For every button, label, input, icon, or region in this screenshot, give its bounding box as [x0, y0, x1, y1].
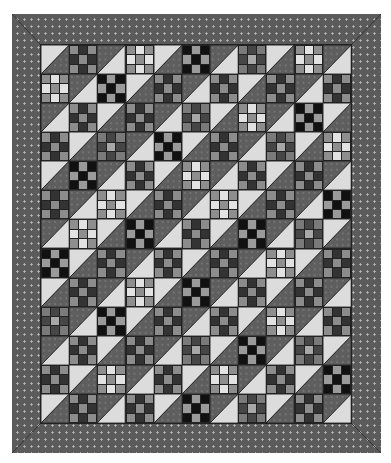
nine-patch-square [239, 288, 247, 296]
nine-patch-square [333, 375, 341, 383]
nine-patch-square [70, 114, 78, 122]
nine-patch-square [286, 250, 294, 258]
nine-patch-square [155, 375, 163, 383]
nine-patch-square [314, 230, 322, 238]
nine-patch-square [88, 181, 96, 189]
nine-patch-square [248, 55, 256, 63]
nine-patch-square [183, 337, 191, 345]
nine-patch-square [88, 297, 96, 305]
nine-patch-square [305, 404, 313, 412]
nine-patch-square [183, 355, 191, 363]
nine-patch-square [164, 94, 172, 102]
nine-patch-square [324, 133, 332, 141]
nine-patch-square [60, 259, 68, 267]
nine-patch-square [248, 230, 256, 238]
nine-patch-square [267, 385, 275, 393]
nine-patch-square [239, 355, 247, 363]
nine-patch-block [323, 307, 351, 336]
nine-patch-square [314, 46, 322, 54]
nine-patch-block [97, 249, 125, 278]
nine-patch-block [295, 278, 323, 307]
nine-patch-square [277, 366, 285, 374]
nine-patch-square [229, 259, 237, 267]
nine-patch-square [79, 279, 87, 287]
nine-patch-square [183, 172, 191, 180]
nine-patch-block [154, 190, 182, 219]
nine-patch-square [42, 143, 50, 151]
half-square-triangle-block [323, 161, 351, 190]
nine-patch-square [277, 191, 285, 199]
nine-patch-square [183, 220, 191, 228]
nine-patch-square [314, 239, 322, 247]
nine-patch-square [42, 259, 50, 267]
nine-patch-square [127, 404, 135, 412]
nine-patch-square [192, 230, 200, 238]
nine-patch-square [155, 75, 163, 83]
nine-patch-square [277, 201, 285, 209]
nine-patch-square [164, 366, 172, 374]
nine-patch-square [173, 375, 181, 383]
nine-patch-square [155, 250, 163, 258]
nine-patch-square [51, 268, 59, 276]
nine-patch-square [116, 375, 124, 383]
half-square-triangle-block [154, 336, 182, 365]
nine-patch-block [295, 219, 323, 248]
nine-patch-square [257, 297, 265, 305]
nine-patch-square [192, 279, 200, 287]
nine-patch-square [296, 395, 304, 403]
nine-patch-square [116, 268, 124, 276]
nine-patch-square [201, 123, 209, 131]
nine-patch-square [201, 239, 209, 247]
nine-patch-square [116, 385, 124, 393]
nine-patch-square [127, 414, 135, 422]
nine-patch-square [229, 152, 237, 160]
half-square-triangle-block [69, 365, 97, 394]
nine-patch-square [257, 230, 265, 238]
nine-patch-square [155, 385, 163, 393]
nine-patch-square [173, 259, 181, 267]
nine-patch-square [51, 210, 59, 218]
nine-patch-square [342, 143, 350, 151]
nine-patch-square [305, 414, 313, 422]
nine-patch-square [201, 162, 209, 170]
nine-patch-square [333, 133, 341, 141]
nine-patch-square [324, 75, 332, 83]
nine-patch-block [69, 45, 97, 74]
nine-patch-square [60, 152, 68, 160]
nine-patch-square [192, 297, 200, 305]
nine-patch-block [41, 132, 69, 161]
nine-patch-square [314, 288, 322, 296]
nine-patch-square [305, 395, 313, 403]
nine-patch-square [155, 366, 163, 374]
nine-patch-square [220, 259, 228, 267]
half-square-triangle-block [154, 278, 182, 307]
half-square-triangle-block [97, 45, 125, 74]
nine-patch-square [155, 84, 163, 92]
nine-patch-square [51, 259, 59, 267]
nine-patch-square [342, 210, 350, 218]
nine-patch-square [42, 94, 50, 102]
nine-patch-square [51, 84, 59, 92]
nine-patch-square [173, 94, 181, 102]
nine-patch-square [257, 414, 265, 422]
nine-patch-square [116, 133, 124, 141]
half-square-triangle-block [41, 219, 69, 248]
nine-patch-square [116, 366, 124, 374]
nine-patch-square [127, 220, 135, 228]
nine-patch-block [295, 336, 323, 365]
nine-patch-square [248, 181, 256, 189]
nine-patch-square [296, 55, 304, 63]
half-square-triangle-block [126, 132, 154, 161]
nine-patch-square [70, 123, 78, 131]
nine-patch-square [220, 385, 228, 393]
nine-patch-square [342, 94, 350, 102]
nine-patch-square [239, 162, 247, 170]
nine-patch-square [267, 375, 275, 383]
half-square-triangle-block [41, 394, 69, 423]
half-square-triangle-block [238, 190, 266, 219]
nine-patch-block [97, 190, 125, 219]
nine-patch-square [145, 55, 153, 63]
nine-patch-square [192, 239, 200, 247]
nine-patch-square [229, 94, 237, 102]
nine-patch-square [305, 162, 313, 170]
